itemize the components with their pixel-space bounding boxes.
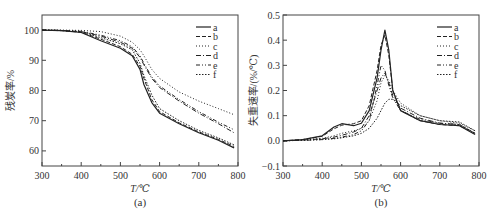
x-tick-label: 600 xyxy=(393,170,408,181)
plot-frame xyxy=(42,15,238,166)
panel-caption: (b) xyxy=(375,196,388,209)
series-line-c xyxy=(283,75,475,140)
x-tick-label: 800 xyxy=(231,170,246,181)
x-tick-label: 600 xyxy=(152,170,167,181)
y-tick-label: 60 xyxy=(29,145,39,156)
x-tick-label: 700 xyxy=(191,170,206,181)
x-tick-label: 300 xyxy=(276,170,291,181)
panel-caption: (a) xyxy=(134,196,147,209)
x-tick-label: 700 xyxy=(432,170,447,181)
x-tick-label: 400 xyxy=(315,170,330,181)
chart-panel-a: 30040050060070080060708090100T/℃残炭率/%(a)… xyxy=(4,15,246,209)
y-axis-label: 失重速率/(%/℃) xyxy=(247,55,260,127)
x-tick-label: 300 xyxy=(35,170,50,181)
legend-label: f xyxy=(454,69,458,80)
x-tick-label: 500 xyxy=(354,170,369,181)
x-axis-label: T/℃ xyxy=(130,183,150,194)
y-tick-label: 0.4 xyxy=(268,35,281,46)
y-tick-label: 0.5 xyxy=(268,10,281,21)
series-line-f xyxy=(283,99,475,141)
y-axis-label: 残炭率/% xyxy=(4,70,16,111)
y-tick-label: 100 xyxy=(24,25,39,36)
plot-frame xyxy=(283,15,479,166)
chart-panel-b: 300400500600700800−0.10.00.10.20.30.40.5… xyxy=(247,10,487,210)
y-tick-label: 80 xyxy=(29,85,39,96)
series-line-d xyxy=(283,73,475,141)
legend-label: f xyxy=(213,69,217,80)
x-tick-label: 500 xyxy=(113,170,128,181)
series-line-c xyxy=(42,30,234,115)
x-tick-label: 400 xyxy=(74,170,89,181)
y-tick-label: 70 xyxy=(29,115,39,126)
y-tick-label: 0.0 xyxy=(268,135,281,146)
y-tick-label: 0.3 xyxy=(268,60,281,71)
y-tick-label: −0.1 xyxy=(262,161,280,172)
series-line-a xyxy=(42,30,234,148)
series-line-a xyxy=(283,30,475,141)
series-line-e xyxy=(42,30,234,130)
y-tick-label: 0.1 xyxy=(268,110,281,121)
series-line-b xyxy=(42,30,234,146)
y-tick-label: 90 xyxy=(29,55,39,66)
figure: 30040050060070080060708090100T/℃残炭率/%(a)… xyxy=(0,0,498,217)
x-tick-label: 800 xyxy=(472,170,487,181)
y-tick-label: 0.2 xyxy=(268,85,281,96)
x-axis-label: T/℃ xyxy=(371,183,391,194)
series-line-e xyxy=(283,65,475,141)
series-line-b xyxy=(283,35,475,141)
